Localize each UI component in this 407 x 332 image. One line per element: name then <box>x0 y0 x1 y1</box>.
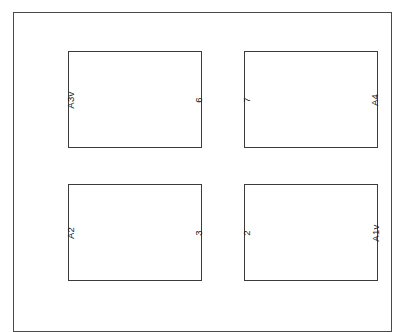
outer-page-frame: A3v 6 7 A4 A2 3 2 A1v <box>13 12 392 332</box>
panel-top-right-label-right: A4 <box>370 93 380 105</box>
panel-bottom-left[interactable]: A2 3 <box>68 184 202 281</box>
panel-top-right[interactable]: 7 A4 <box>244 51 378 148</box>
panel-bottom-left-label-left: A2 <box>66 226 76 238</box>
panel-bottom-right[interactable]: 2 A1v <box>244 184 378 281</box>
panel-bottom-left-label-right: 3 <box>194 230 204 236</box>
panel-top-left-label-right: 6 <box>194 97 204 103</box>
panel-bottom-right-label-left: 2 <box>242 230 252 236</box>
panel-top-left[interactable]: A3v 6 <box>68 51 202 148</box>
panel-top-right-label-left: 7 <box>242 97 252 103</box>
panel-top-left-label-left: A3v <box>66 91 76 108</box>
panel-bottom-right-label-right: A1v <box>370 224 380 241</box>
